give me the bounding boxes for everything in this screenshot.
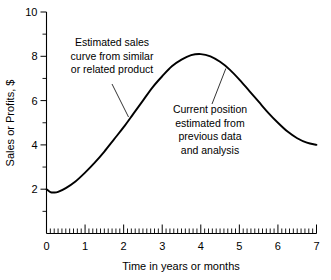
x-axis-group: 01234567 Time in years or months <box>43 225 319 273</box>
x-axis-ticks <box>47 225 317 234</box>
annotation-line: and analysis <box>181 144 239 156</box>
annotation-current-position: Current positionestimated fromprevious d… <box>173 68 247 155</box>
annotation-text: Estimated salescurve from similaror rela… <box>71 36 154 75</box>
annotation-text: Current positionestimated fromprevious d… <box>173 103 247 156</box>
x-tick-label: 7 <box>313 240 319 252</box>
x-axis-tick-labels: 01234567 <box>43 240 319 252</box>
y-tick-label: 2 <box>31 183 37 195</box>
y-tick-label: 6 <box>31 95 37 107</box>
y-axis-title: Sales or Profits, $ <box>4 80 16 167</box>
x-tick-label: 1 <box>82 240 88 252</box>
annotation-estimated-sales-curve: Estimated salescurve from similaror rela… <box>71 36 154 117</box>
y-tick-label: 8 <box>31 50 37 62</box>
annotation-leader-line <box>212 68 226 104</box>
y-tick-label: 4 <box>31 139 37 151</box>
x-tick-label: 0 <box>43 240 49 252</box>
annotation-line: or related product <box>71 63 153 75</box>
x-tick-label: 2 <box>121 240 127 252</box>
x-tick-label: 5 <box>236 240 242 252</box>
y-axis-tick-labels: 246810 <box>25 6 37 195</box>
y-axis-group: 246810 Sales or Profits, $ <box>4 6 47 233</box>
chart-svg: 246810 Sales or Profits, $ 01234567 Time… <box>0 0 331 280</box>
annotation-line: estimated from <box>175 117 245 129</box>
y-axis-ticks <box>41 12 47 211</box>
x-axis-title: Time in years or months <box>122 260 240 272</box>
annotation-line: Estimated sales <box>75 36 149 48</box>
x-tick-label: 4 <box>198 240 204 252</box>
annotation-line: Current position <box>173 103 247 115</box>
annotation-line: previous data <box>178 130 241 142</box>
product-lifecycle-chart: 246810 Sales or Profits, $ 01234567 Time… <box>0 0 331 280</box>
y-tick-label: 10 <box>25 6 37 18</box>
annotation-line: curve from similar <box>71 50 154 62</box>
x-tick-label: 3 <box>159 240 165 252</box>
annotations-group: Estimated salescurve from similaror rela… <box>71 36 248 156</box>
x-tick-label: 6 <box>275 240 281 252</box>
annotation-leader-line <box>112 84 129 117</box>
